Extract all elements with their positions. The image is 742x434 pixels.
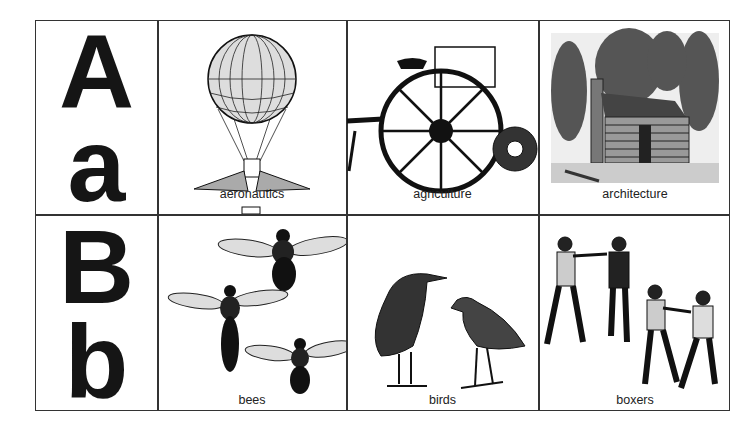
alphabet-chart: A a aeronautics: [35, 20, 730, 411]
lowercase-letter: a: [68, 113, 126, 215]
picture-cell-architecture: architecture: [539, 21, 731, 214]
picture-label: architecture: [539, 187, 731, 201]
picture-cell-bees: bees: [158, 216, 346, 411]
picture-cell-boxers: boxers: [539, 216, 731, 411]
hot-air-balloon-icon: [158, 21, 346, 214]
boxers-icon: [539, 216, 731, 411]
letter-cell-a: A a: [36, 21, 157, 214]
picture-cell-aeronautics: aeronautics: [158, 21, 346, 214]
picture-label: bees: [158, 393, 346, 407]
letter-cell-b: B b: [36, 216, 157, 411]
picture-label: aeronautics: [158, 187, 346, 201]
picture-cell-birds: birds: [347, 216, 538, 411]
picture-label: birds: [347, 393, 538, 407]
picture-cell-agriculture: agriculture: [347, 21, 538, 214]
lowercase-letter: b: [65, 309, 129, 412]
birds-icon: [347, 216, 538, 411]
picture-label: agriculture: [347, 187, 538, 201]
bees-icon: [158, 216, 346, 411]
log-cabin-icon: [539, 21, 731, 214]
picture-label: boxers: [539, 393, 731, 407]
farm-machine-icon: [347, 21, 538, 214]
